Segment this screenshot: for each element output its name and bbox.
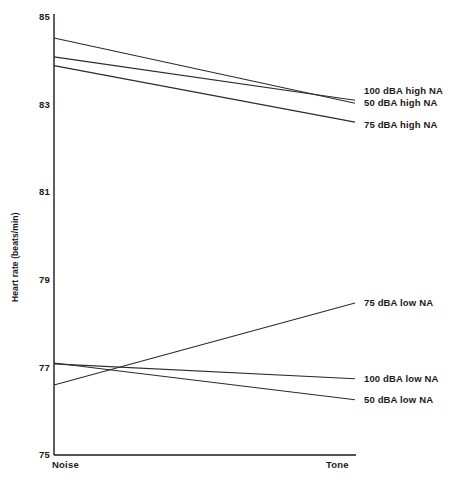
y-tick-label-75: 75 [24,449,50,460]
series-line-75-dba-low-na [54,303,355,385]
y-tick-label-77: 77 [24,362,50,373]
y-tick-label-79: 79 [24,274,50,285]
series-label-50-dba-low-na: 50 dBA low NA [364,394,433,405]
series-line-100-dba-low-na [54,364,355,379]
series-label-50-dba-high-na: 50 dBA high NA [364,97,438,108]
series-label-75-dba-low-na: 75 dBA low NA [364,297,433,308]
chart-canvas [0,0,461,494]
x-tick-label-tone: Tone [326,459,349,470]
y-tick-label-81: 81 [24,186,50,197]
line-chart-figure: Heart rate (beats/min) 85 83 81 79 77 75… [0,0,461,494]
series-label-100-dba-high-na: 100 dBA high NA [364,85,443,96]
y-tick-label-85: 85 [24,11,50,22]
series-line-50-dba-low-na [54,363,355,400]
series-label-75-dba-high-na: 75 dBA high NA [364,119,438,130]
series-label-100-dba-low-na: 100 dBA low NA [364,373,439,384]
y-axis-title: Heart rate (beats/min) [10,212,20,302]
y-tick-label-83: 83 [24,99,50,110]
x-tick-label-noise: Noise [52,459,79,470]
